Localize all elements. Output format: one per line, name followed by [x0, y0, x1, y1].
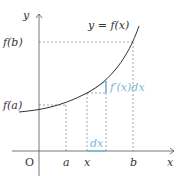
curve-label: y = f(x)	[87, 19, 129, 32]
x-axis-label: x	[167, 156, 174, 169]
y-tick-fb: f(b)	[2, 36, 23, 49]
y-axis-label: y	[22, 9, 30, 22]
dx-label: dx	[90, 137, 104, 150]
curve-y-fx	[19, 26, 139, 112]
x-tick-a: a	[63, 156, 70, 169]
fprime-dx-label: f′(x)dx	[109, 81, 145, 94]
origin-label: O	[25, 156, 34, 169]
function-graph: y x O y = f(x) f(b) f(a) a x b dx f′(x)d…	[0, 0, 184, 184]
y-tick-fa: f(a)	[2, 99, 22, 112]
x-tick-x: x	[84, 156, 91, 169]
x-tick-b: b	[130, 156, 137, 169]
